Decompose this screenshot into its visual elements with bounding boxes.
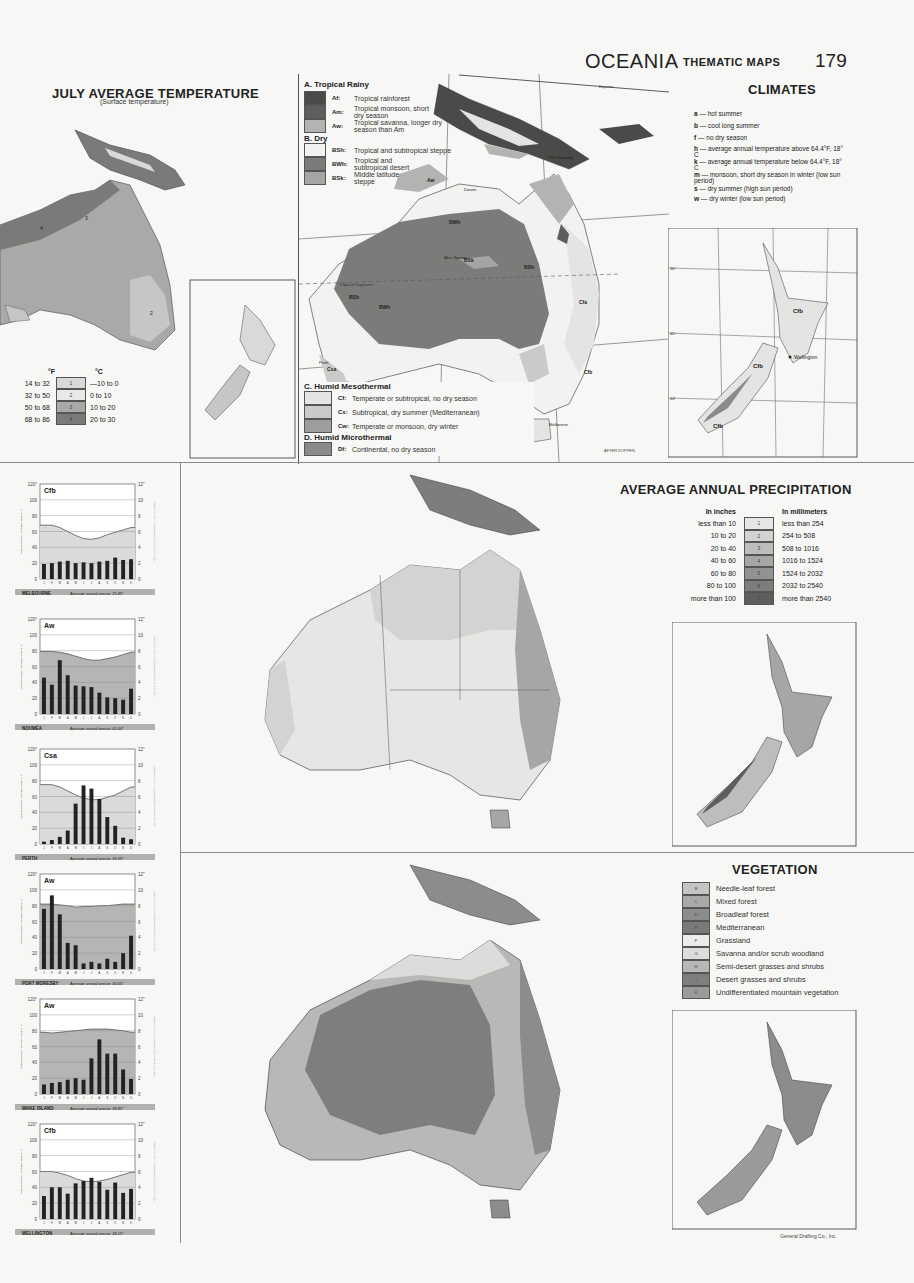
svg-text:CURVE SHOWS TEMPERATURE IN °F: CURVE SHOWS TEMPERATURE IN °F bbox=[20, 899, 23, 944]
legend-group-title: B. Dry bbox=[304, 134, 504, 143]
svg-text:A: A bbox=[67, 716, 69, 720]
svg-text:0: 0 bbox=[34, 712, 37, 717]
nz-vegetation-inset bbox=[672, 1010, 857, 1230]
legend-item: Cw:Temperate or monsoon, dry winter bbox=[304, 419, 534, 433]
climates-legend-humid: C. Humid Mesothermal Cf:Temperate or sub… bbox=[304, 382, 534, 456]
legend-row: F Grassland bbox=[682, 934, 838, 947]
svg-text:100: 100 bbox=[29, 633, 37, 638]
svg-text:100: 100 bbox=[29, 888, 37, 893]
legend-item: Df:Continental, no dry season bbox=[304, 442, 534, 456]
svg-text:D: D bbox=[130, 1096, 133, 1100]
legend-group-title: D. Humid Microthermal bbox=[304, 433, 534, 442]
svg-text:F: F bbox=[51, 581, 53, 585]
svg-text:D: D bbox=[130, 1221, 133, 1225]
svg-text:A: A bbox=[98, 716, 100, 720]
svg-text:O: O bbox=[114, 971, 117, 975]
svg-text:0: 0 bbox=[34, 1092, 37, 1097]
credit-label: AFTER KÖPPEN bbox=[604, 448, 635, 453]
svg-text:120°: 120° bbox=[28, 997, 38, 1002]
legend-item: Aw:Tropical savanna, longer dry season t… bbox=[304, 119, 504, 133]
vegetation-title: VEGETATION bbox=[732, 862, 818, 877]
perth-label: Perth bbox=[319, 360, 329, 365]
svg-text:A: A bbox=[98, 846, 100, 850]
atlas-section-title: OCEANIA bbox=[585, 50, 679, 73]
svg-text:6: 6 bbox=[138, 665, 141, 670]
svg-text:80: 80 bbox=[32, 1154, 38, 1159]
svg-text:S: S bbox=[106, 1221, 108, 1225]
legend-row: 14 to 32 1 —10 to 0 bbox=[0, 377, 130, 389]
key-item: a — hot summer bbox=[694, 110, 844, 117]
svg-text:20: 20 bbox=[32, 826, 38, 831]
divider bbox=[0, 462, 914, 463]
climate-letter-key: a — hot summer b — cool long summer f — … bbox=[694, 110, 844, 202]
svg-text:M: M bbox=[59, 1096, 62, 1100]
svg-text:VERTICAL BARS SHOW PRECIPITATI: VERTICAL BARS SHOW PRECIPITATION IN INCH… bbox=[153, 891, 156, 952]
legend-row: C Mixed forest bbox=[682, 895, 838, 908]
svg-text:M: M bbox=[74, 971, 77, 975]
legend-swatch: K bbox=[682, 986, 710, 999]
svg-text:BSh: BSh bbox=[349, 294, 359, 300]
publisher-credit: General Drafting Co., Inc. bbox=[780, 1233, 837, 1239]
svg-text:J: J bbox=[83, 1096, 85, 1100]
svg-text:3: 3 bbox=[85, 215, 88, 221]
svg-text:2: 2 bbox=[138, 826, 141, 831]
melbourne-label: Melbourne bbox=[549, 422, 569, 427]
svg-text:40: 40 bbox=[32, 680, 38, 685]
legend-row: H Semi-desert grasses and shrubs bbox=[682, 960, 838, 973]
legend-swatch: C bbox=[682, 895, 710, 908]
svg-text:CURVE SHOWS TEMPERATURE IN °F: CURVE SHOWS TEMPERATURE IN °F bbox=[20, 644, 23, 689]
svg-text:80: 80 bbox=[32, 649, 38, 654]
svg-text:J: J bbox=[43, 1221, 45, 1225]
svg-text:4: 4 bbox=[138, 810, 141, 815]
legend-item: BWh:Tropical and subtropical desert bbox=[304, 157, 504, 171]
svg-text:Average annual precip: 25.89": Average annual precip: 25.89" bbox=[70, 591, 124, 595]
svg-text:F: F bbox=[51, 716, 53, 720]
svg-text:J: J bbox=[43, 846, 45, 850]
svg-text:A: A bbox=[67, 1221, 69, 1225]
svg-text:CURVE SHOWS TEMPERATURE IN °F: CURVE SHOWS TEMPERATURE IN °F bbox=[20, 1024, 23, 1069]
svg-text:10: 10 bbox=[138, 888, 144, 893]
svg-text:O: O bbox=[114, 1096, 117, 1100]
climate-chart: 020406080100120°024681012"JFMAMJJASONDCf… bbox=[0, 1110, 180, 1235]
svg-text:F: F bbox=[51, 1096, 53, 1100]
svg-text:Cfb: Cfb bbox=[44, 1127, 56, 1134]
svg-text:60: 60 bbox=[32, 795, 38, 800]
svg-text:8: 8 bbox=[138, 779, 141, 784]
legend-item: Cf:Temperate or subtropical, no dry seas… bbox=[304, 391, 534, 405]
svg-text:6: 6 bbox=[138, 1170, 141, 1175]
svg-text:N: N bbox=[122, 971, 124, 975]
svg-text:J: J bbox=[91, 971, 93, 975]
climates-title: CLIMATES bbox=[748, 82, 816, 97]
svg-text:Cfa: Cfa bbox=[579, 299, 587, 305]
precipitation-map bbox=[250, 470, 670, 840]
svg-text:8: 8 bbox=[138, 514, 141, 519]
svg-text:2: 2 bbox=[138, 1201, 141, 1206]
svg-text:M: M bbox=[74, 716, 77, 720]
svg-text:10: 10 bbox=[138, 633, 144, 638]
svg-text:M: M bbox=[74, 846, 77, 850]
page-number: 179 bbox=[815, 50, 847, 72]
svg-text:CURVE SHOWS TEMPERATURE IN °F: CURVE SHOWS TEMPERATURE IN °F bbox=[20, 774, 23, 819]
svg-text:0: 0 bbox=[34, 577, 37, 582]
svg-text:A: A bbox=[67, 971, 69, 975]
svg-text:120°: 120° bbox=[28, 872, 38, 877]
svg-text:40°: 40° bbox=[670, 331, 676, 336]
svg-text:20: 20 bbox=[32, 696, 38, 701]
svg-text:36°: 36° bbox=[670, 266, 676, 271]
svg-text:40: 40 bbox=[32, 1060, 38, 1065]
svg-text:12": 12" bbox=[138, 617, 145, 622]
svg-text:F: F bbox=[51, 846, 53, 850]
svg-text:VERTICAL BARS SHOW PRECIPITATI: VERTICAL BARS SHOW PRECIPITATION IN INCH… bbox=[153, 766, 156, 827]
svg-text:S: S bbox=[106, 971, 108, 975]
climate-chart: 020406080100120°024681012"JFMAMJJASONDCf… bbox=[0, 470, 180, 595]
nz-climate-inset: Cfb Cfb Cfb Wellington 36° 40° 44° bbox=[668, 228, 858, 458]
svg-text:D: D bbox=[130, 971, 133, 975]
wellington-label: Wellington bbox=[794, 354, 817, 360]
svg-text:A: A bbox=[98, 1221, 100, 1225]
svg-text:2: 2 bbox=[138, 951, 141, 956]
svg-text:20: 20 bbox=[32, 1201, 38, 1206]
vegetation-legend: B Needle-leaf forestC Mixed forestD Broa… bbox=[682, 882, 838, 999]
legend-swatch: 5 bbox=[744, 567, 774, 580]
legend-group-title: C. Humid Mesothermal bbox=[304, 382, 534, 391]
svg-text:60: 60 bbox=[32, 1045, 38, 1050]
